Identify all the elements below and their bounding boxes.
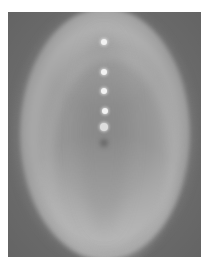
bright-dot-2 [101, 69, 107, 75]
dark-spot [100, 139, 108, 147]
bright-dot-3 [101, 88, 107, 94]
bright-dot-1 [101, 39, 107, 45]
bright-dot-5 [100, 123, 108, 131]
vignette [8, 12, 201, 257]
photograph [8, 12, 201, 257]
bright-dot-4 [102, 108, 108, 114]
